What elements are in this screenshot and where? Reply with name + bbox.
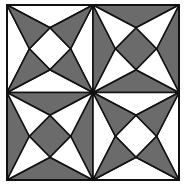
quilt-pattern bbox=[0, 0, 186, 184]
